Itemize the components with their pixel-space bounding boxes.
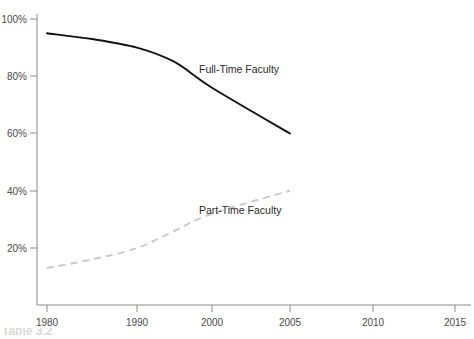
chart-canvas: 100% 80% 60% 40% 20% 1980 1990 2000 2005…: [0, 0, 474, 339]
x-axis-tick-labels: 1980 1990 2000 2005 2010 2015: [36, 317, 467, 328]
part-time-faculty-label: Part-Time Faculty: [199, 204, 282, 216]
full-time-faculty-label: Full-Time Faculty: [199, 63, 280, 75]
y-tick-label-80: 80%: [7, 71, 27, 82]
full-time-faculty-line: [47, 33, 290, 133]
x-axis-ticks: [47, 305, 455, 312]
faculty-trend-chart: 100% 80% 60% 40% 20% 1980 1990 2000 2005…: [0, 0, 474, 339]
y-tick-label-40: 40%: [7, 186, 27, 197]
x-tick-label-1990: 1990: [126, 317, 149, 328]
figure-caption: Table 3.2: [2, 328, 152, 339]
x-tick-label-2015: 2015: [444, 317, 467, 328]
x-tick-label-2005: 2005: [279, 317, 302, 328]
x-tick-label-2010: 2010: [362, 317, 385, 328]
x-tick-label-1980: 1980: [36, 317, 59, 328]
y-tick-label-100: 100%: [1, 14, 27, 25]
y-axis-ticks: [30, 19, 37, 248]
x-tick-label-2000: 2000: [201, 317, 224, 328]
y-tick-label-20: 20%: [7, 243, 27, 254]
figure-caption-text: Table 3.2: [2, 328, 152, 337]
y-tick-label-60: 60%: [7, 128, 27, 139]
part-time-faculty-line: [47, 191, 290, 268]
y-axis-tick-labels: 100% 80% 60% 40% 20%: [1, 14, 27, 254]
